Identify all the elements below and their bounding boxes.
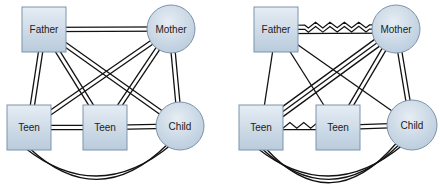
node-label: Child (169, 121, 192, 132)
node-child: Child (387, 100, 437, 150)
node-label: Father (30, 24, 60, 35)
node-label: Teen (18, 122, 40, 133)
node-teen1: Teen (239, 105, 283, 150)
node-teen2: Teen (83, 105, 127, 150)
conflict-line (294, 22, 378, 28)
diagram-canvas: FatherMotherTeenTeenChild FatherMotherTe… (0, 0, 440, 192)
node-label: Father (262, 24, 292, 35)
node-label: Teen (94, 122, 116, 133)
node-label: Mother (380, 24, 412, 35)
node-child: Child (156, 102, 204, 150)
family-diagram-right: FatherMotherTeenTeenChild (239, 5, 437, 183)
genogram-comparison: FatherMotherTeenTeenChild FatherMotherTe… (0, 0, 440, 192)
node-teen2: Teen (316, 105, 360, 150)
node-father: Father (254, 7, 298, 52)
node-label: Teen (327, 122, 349, 133)
node-mother: Mother (147, 5, 195, 53)
node-label: Mother (155, 24, 187, 35)
node-label: Teen (250, 122, 272, 133)
node-label: Child (401, 120, 424, 131)
family-diagram-left: FatherMotherTeenTeenChild (7, 5, 204, 179)
node-teen1: Teen (7, 105, 51, 150)
node-father: Father (22, 7, 66, 52)
node-mother: Mother (372, 5, 420, 53)
